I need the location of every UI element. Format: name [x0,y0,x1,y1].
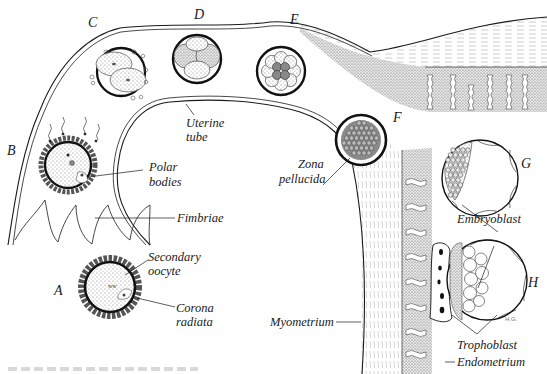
label-embryoblast: Embryoblast [456,212,521,226]
embryoblast-cell [448,193,453,198]
morula-cell [347,131,351,135]
morula-cell [359,146,363,150]
embryoblast-cell [453,163,458,168]
morula-cell [362,131,366,135]
embryoblast-cell [456,158,461,163]
embryoblast-cell [453,173,458,178]
stage-c-two-cell [90,48,148,100]
embryoblast-cell [446,158,451,163]
embryoblast-cell [456,178,461,183]
embryoblast-cell [466,148,471,153]
stage-label-d: D [193,7,204,22]
embryoblast-cell [448,183,453,188]
stage-a-secondary-oocyte: ww [81,258,139,316]
embryoblast-cell [451,148,456,153]
embryoblast-cell [463,153,468,158]
inner-cell-mass-cell [463,300,475,312]
inner-cell-mass-cell [464,259,477,272]
stage-d-four-cell [173,35,221,83]
label-myometrium: Myometrium [269,315,334,329]
embryoblast-cell [448,163,453,168]
embryoblast-cell [461,148,466,153]
morula-cell [369,136,373,140]
embryoblast-cell [458,173,463,178]
label-corona-radiata-2: radiata [176,315,213,329]
stage-label-b: B [7,143,16,158]
embryoblast-cell [453,153,458,158]
stage-g-blastocyst [442,140,518,216]
stage-label-c: C [88,15,98,30]
blastomere [281,71,290,80]
stage-e-morula [257,47,305,95]
label-corona-radiata-1: Corona [176,301,214,315]
label-endometrium: Endometrium [456,355,525,369]
morula-cell [344,146,348,150]
stage-label-f: F [392,110,402,125]
morula-cell [342,141,346,145]
morula-cell [372,131,376,135]
label-polar-bodies-1: Polar [148,160,178,174]
blastomere [273,71,282,80]
label-secondary-oocyte-2: oocyte [148,264,181,278]
morula-cell [364,136,368,140]
fimbriae [15,200,150,245]
label-fimbriae: Fimbriae [176,211,224,225]
label-zona-pellucida-2: pellucida [278,172,326,186]
blastomere [273,63,282,72]
stage-b-fertilization [41,117,100,192]
morula-cell [354,146,358,150]
label-uterine-tube-2: tube [186,130,208,144]
embryoblast-cell [456,188,461,193]
morula-cell [359,126,363,130]
morula-cell [369,146,373,150]
morula-cell [359,136,363,140]
morula-cell [369,126,373,130]
morula-cell [367,131,371,135]
embryoblast-cell [453,193,458,198]
morula-cell [357,151,361,155]
inner-cell-mass-cell [463,246,475,258]
morula-cell [349,126,353,130]
morula-cell [352,131,356,135]
morula-cell [364,126,368,130]
morula-cell [347,141,351,145]
stage-label-h: H [527,275,539,290]
embryoblast-cell [451,188,456,193]
embryoblast-cell [456,148,461,153]
label-uterine-tube-1: Uterine [186,116,225,130]
morula-cell [364,146,368,150]
label-zona-pellucida-1: Zona [298,157,324,171]
embryoblast-cell [448,153,453,158]
morula-cell [357,121,361,125]
stage-label-e: E [289,12,299,27]
embryo-development-diagram: ww [0,0,547,374]
stage-f-morula [336,115,386,165]
stage-label-g: G [521,156,531,171]
morula-cell [372,141,376,145]
embryoblast-cell [451,168,456,173]
embryoblast-cell [456,168,461,173]
embryoblast-cell [458,153,463,158]
svg-text:ww: ww [108,283,117,289]
morula-cell [344,136,348,140]
stage-h-implanting-blastocyst [430,240,527,322]
stage-label-a: A [53,283,63,298]
embryoblast-cell [451,158,456,163]
morula-cell [357,141,361,145]
embryoblast-cell [463,163,468,168]
figure-caption-faded [8,367,198,371]
inner-cell-mass-cell [474,296,485,307]
embryoblast-cell [453,183,458,188]
embryoblast-cell [451,178,456,183]
embryoblast-cell [458,163,463,168]
morula-cell [349,136,353,140]
label-trophoblast: Trophoblast [457,338,518,352]
morula-cell [362,151,366,155]
morula-cell [354,126,358,130]
artist-initials: H.G. [505,316,518,322]
morula-cell [362,121,366,125]
morula-cell [352,151,356,155]
morula-cell [357,131,361,135]
morula-cell [362,141,366,145]
embryoblast-cell [458,183,463,188]
